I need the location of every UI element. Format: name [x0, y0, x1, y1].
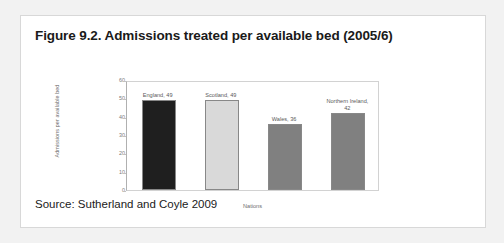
bar-wales: [268, 124, 302, 190]
bar-label-northern-ireland: Northern Ireland, 42: [317, 98, 377, 112]
bar-england: [142, 100, 176, 190]
bar-chart: Admissions per available bed 01020304050…: [71, 56, 416, 196]
source-note: Source: Sutherland and Coyle 2009: [35, 198, 217, 210]
bar-northern-ireland: [331, 113, 365, 190]
figure-card: Figure 9.2. Admissions treated per avail…: [20, 15, 486, 228]
y-axis-title: Admissions per available bed: [54, 66, 64, 176]
bar-label-scotland: Scotland, 49: [193, 92, 249, 99]
y-tick-mark: [123, 191, 126, 192]
y-tick-label: 30: [103, 133, 125, 138]
y-tick-label: 40: [103, 115, 125, 120]
y-tick-label: 0: [103, 188, 125, 193]
y-tick-label: 50: [103, 96, 125, 101]
figure-title: Figure 9.2. Admissions treated per avail…: [35, 28, 393, 43]
y-tick-label: 10: [103, 170, 125, 175]
y-tick-label: 20: [103, 151, 125, 156]
y-tick-label: 60: [103, 78, 125, 83]
bar-label-england: England, 49: [130, 92, 186, 99]
screenshot-page: Figure 9.2. Admissions treated per avail…: [0, 0, 504, 243]
bar-scotland: [205, 100, 239, 190]
bar-label-wales: Wales, 36: [256, 116, 312, 123]
